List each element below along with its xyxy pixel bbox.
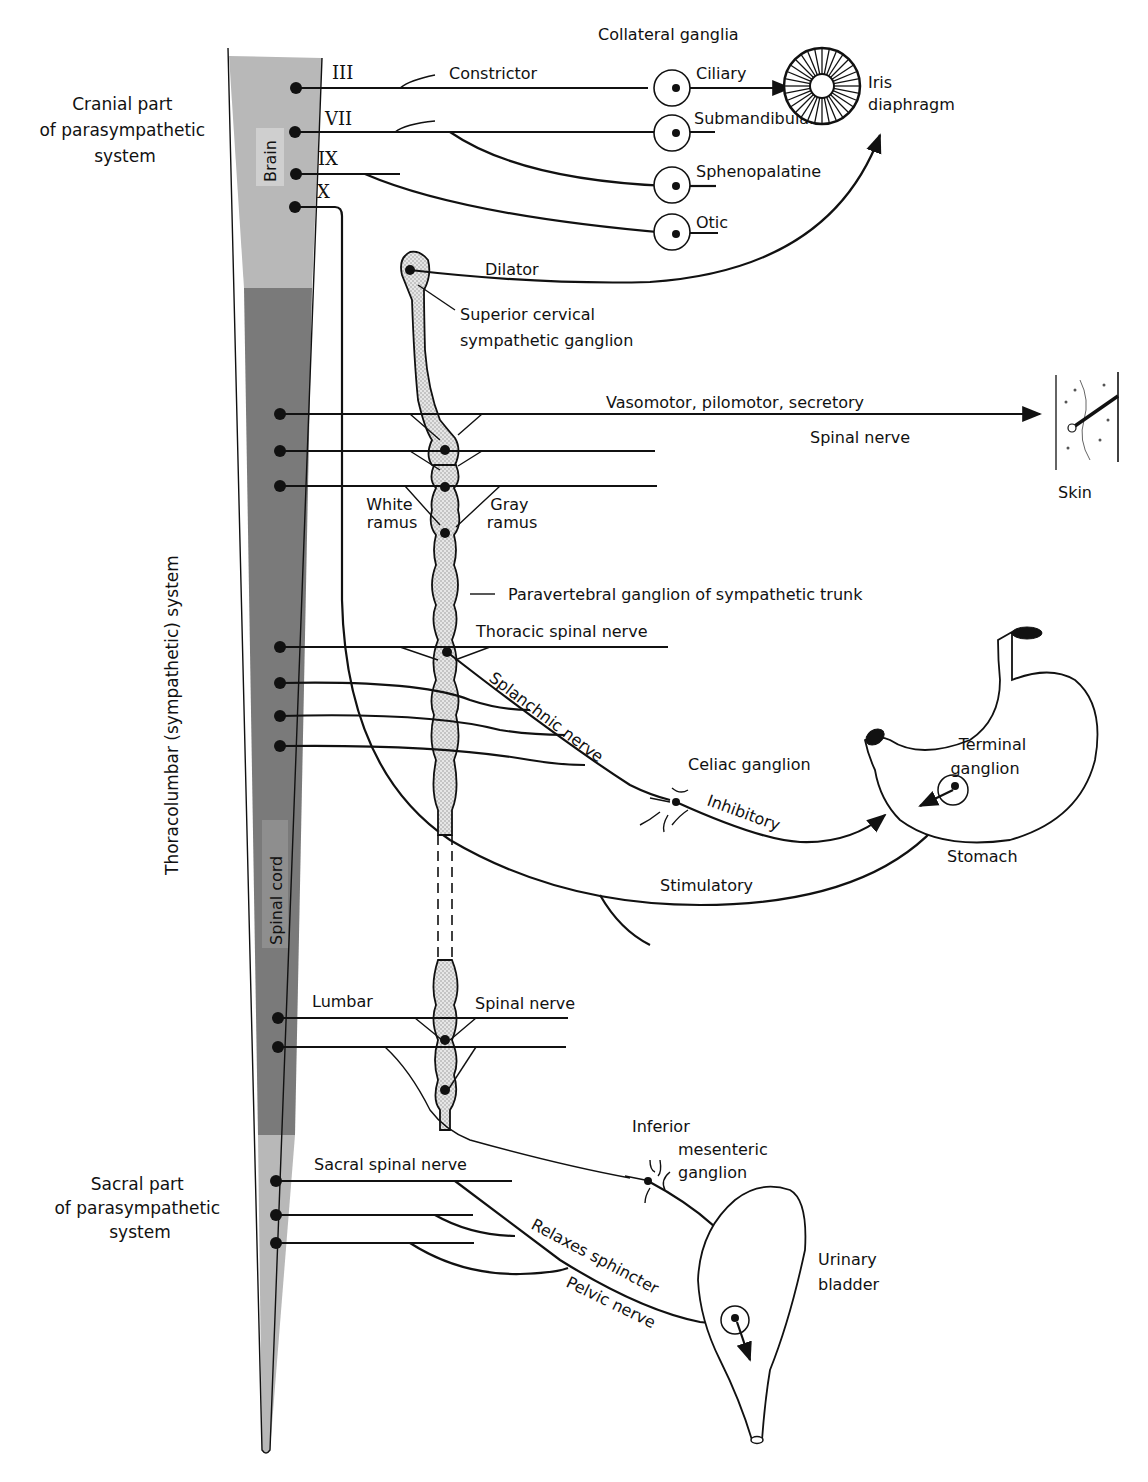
- sacral-region-label: Sacral part of parasympathetic system: [54, 1174, 225, 1242]
- inferior-mesenteric-ganglion: [625, 1160, 670, 1203]
- upper-thoracic-nerves: Vasomotor, pilomotor, secretory Spinal n…: [274, 393, 1040, 532]
- svg-text:Ciliary: Ciliary: [696, 64, 746, 83]
- iris-label: Iris diaphragm: [868, 73, 955, 114]
- cranial-nerve-VII: VII: [324, 108, 352, 129]
- collateral-ganglia: Collateral ganglia Ciliary Submandibular…: [598, 25, 821, 250]
- inferior-mesenteric-label: Inferior mesenteric ganglion: [632, 1117, 773, 1182]
- svg-text:Sphenopalatine: Sphenopalatine: [696, 162, 821, 181]
- brain-label: Brain: [261, 140, 280, 182]
- splanchnic-label: Splanchnic nerve: [486, 668, 608, 766]
- submandibular-ganglion: Submandibular: [654, 109, 816, 151]
- constrictor-label: Constrictor: [449, 64, 538, 83]
- urinary-bladder-label: Urinary bladder: [818, 1250, 882, 1294]
- sphenopalatine-ganglion: Sphenopalatine: [654, 162, 821, 203]
- urinary-bladder-illustration: [698, 1187, 805, 1444]
- stomach-label: Stomach: [947, 847, 1018, 866]
- spinal-nerve-upper-label: Spinal nerve: [810, 428, 910, 447]
- cranial-region-label: Cranial part of parasympathetic system: [39, 94, 210, 166]
- cranial-nerve-III: III: [332, 62, 353, 83]
- celiac-ganglion: [640, 788, 688, 832]
- ciliary-ganglion: Ciliary: [654, 64, 746, 106]
- paravertebral-label: Paravertebral ganglion of sympathetic tr…: [508, 585, 863, 604]
- sacral-spinal-nerve-label: Sacral spinal nerve: [314, 1155, 467, 1174]
- gray-ramus-label: Gray ramus: [487, 495, 537, 532]
- superior-cervical-label: Superior cervical sympathetic ganglion: [460, 305, 633, 350]
- iris-diaphragm: [784, 48, 860, 124]
- thoracic-spinal-nerve-label: Thoracic spinal nerve: [475, 622, 648, 641]
- otic-ganglion: Otic: [654, 213, 728, 250]
- lumbar-label: Lumbar: [312, 992, 373, 1011]
- skin-label: Skin: [1058, 483, 1092, 502]
- dilator-label: Dilator: [485, 260, 539, 279]
- autonomic-nervous-system-diagram: Brain Spinal cord Cranial part of parasy…: [0, 0, 1148, 1482]
- celiac-label: Celiac ganglion: [688, 755, 811, 774]
- sacral-nerves: Sacral spinal nerve Relaxes sphincter Pe…: [270, 1155, 735, 1332]
- stimulatory-label: Stimulatory: [660, 876, 753, 895]
- svg-text:Otic: Otic: [696, 213, 728, 232]
- cranial-nerve-X: X: [317, 181, 330, 202]
- thoracolumbar-region-label: Thoracolumbar (sympathetic) system: [162, 555, 182, 876]
- skin-illustration: [1056, 372, 1118, 470]
- spinal-cord-label: Spinal cord: [267, 856, 286, 945]
- collateral-ganglia-heading: Collateral ganglia: [598, 25, 739, 44]
- spinal-nerve-lower-label: Spinal nerve: [475, 994, 575, 1013]
- white-ramus-label: White ramus: [366, 495, 418, 532]
- vasomotor-label: Vasomotor, pilomotor, secretory: [606, 393, 864, 412]
- cranial-nerve-IX: IX: [318, 148, 338, 169]
